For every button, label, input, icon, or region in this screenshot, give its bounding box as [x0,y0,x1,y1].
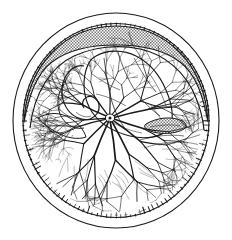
fundus-illustration [0,0,232,240]
figure-root [0,0,232,240]
hook-fold [38,66,99,139]
